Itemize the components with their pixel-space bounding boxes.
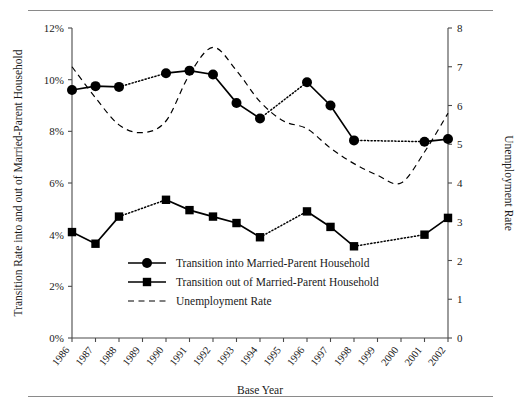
data-point-out: [326, 223, 334, 231]
figure-container: 0%2%4%6%8%10%12%012345678198619871988198…: [0, 0, 521, 415]
legend-label-2: Unemployment Rate: [176, 295, 272, 308]
x-tick-label: 1996: [285, 344, 307, 367]
series-into-bridge: [260, 82, 307, 118]
x-tick-label: 1990: [144, 344, 166, 367]
legend-marker-circle: [142, 258, 152, 268]
data-point-into: [232, 98, 242, 108]
y-right-tick-label: 0: [457, 332, 463, 344]
y-right-tick-label: 2: [457, 255, 463, 267]
x-tick-label: 2002: [426, 344, 448, 367]
x-tick-label: 1994: [238, 344, 260, 368]
y-left-tick-label: 10%: [44, 74, 64, 86]
y-right-tick-label: 7: [457, 61, 463, 73]
x-tick-label: 1993: [214, 344, 236, 367]
legend-label-0: Transition into Married-Parent Household: [176, 257, 370, 269]
data-point-out: [209, 212, 217, 220]
series-into-bridge: [354, 140, 425, 141]
y-left-tick-label: 12%: [44, 22, 64, 34]
data-point-into: [443, 134, 453, 144]
x-tick-label: 1999: [355, 344, 377, 367]
data-point-out: [185, 206, 193, 214]
y-right-tick-label: 4: [457, 177, 463, 189]
x-tick-label: 1986: [50, 344, 72, 367]
y-left-tick-label: 4%: [49, 229, 64, 241]
legend-marker-square: [143, 278, 151, 286]
x-tick-label: 1987: [73, 344, 95, 367]
y-right-tick-label: 8: [457, 22, 463, 34]
y-left-tick-label: 2%: [49, 280, 64, 292]
data-point-into: [255, 113, 265, 123]
x-tick-label: 1995: [261, 344, 283, 367]
data-point-out: [350, 242, 358, 250]
chart-canvas: 0%2%4%6%8%10%12%012345678198619871988198…: [0, 0, 521, 415]
x-tick-label: 1988: [97, 344, 119, 367]
x-tick-label: 1992: [191, 344, 213, 367]
series-out-bridge: [354, 235, 425, 247]
line-chart: 0%2%4%6%8%10%12%012345678198619871988198…: [0, 0, 521, 415]
data-point-out: [91, 240, 99, 248]
data-point-into: [302, 77, 312, 87]
series-into-line: [307, 82, 354, 140]
x-tick-label: 1998: [332, 344, 354, 367]
y-right-tick-label: 1: [457, 293, 463, 305]
data-point-out: [115, 212, 123, 220]
data-point-out: [256, 233, 264, 241]
y-axis-left-title: Transition Rate into and out of Married-…: [12, 49, 24, 316]
x-tick-label: 1991: [167, 344, 189, 367]
data-point-into: [67, 85, 77, 95]
data-point-into: [208, 70, 218, 80]
data-point-into: [91, 81, 101, 91]
series-out-bridge: [119, 200, 166, 217]
y-right-tick-label: 6: [457, 100, 463, 112]
data-point-into: [420, 137, 430, 147]
x-axis-title: Base Year: [237, 384, 283, 396]
x-tick-label: 2000: [379, 344, 401, 367]
data-point-out: [444, 214, 452, 222]
data-point-into: [326, 101, 336, 111]
y-right-tick-label: 5: [457, 138, 463, 150]
data-point-out: [232, 219, 240, 227]
data-point-out: [420, 230, 428, 238]
y-left-tick-label: 8%: [49, 125, 64, 137]
data-point-out: [68, 228, 76, 236]
data-point-into: [114, 82, 124, 92]
data-point-into: [349, 135, 359, 145]
data-point-out: [162, 196, 170, 204]
series-out-bridge: [260, 211, 307, 237]
x-tick-label: 1997: [308, 344, 330, 367]
data-point-into: [161, 68, 171, 78]
legend-label-1: Transition out of Married-Parent Househo…: [176, 276, 379, 288]
y-right-tick-label: 3: [457, 216, 463, 228]
y-left-tick-label: 0%: [49, 332, 64, 344]
y-left-tick-label: 6%: [49, 177, 64, 189]
data-point-out: [303, 207, 311, 215]
y-axis-right-title: Unemployment Rate: [502, 135, 515, 231]
series-into-bridge: [119, 73, 166, 87]
data-point-into: [185, 66, 195, 76]
x-tick-label: 1989: [120, 344, 142, 367]
x-tick-label: 2001: [402, 344, 424, 367]
